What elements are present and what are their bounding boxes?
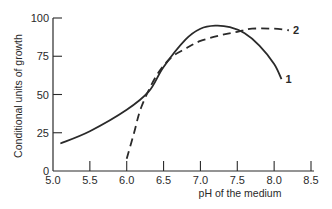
- y-tick-label: 25: [37, 127, 49, 139]
- x-axis: 5.05.56.06.57.07.58.08.5: [45, 161, 318, 186]
- y-tick-label: 75: [37, 50, 49, 62]
- series-1-line: [60, 26, 281, 144]
- x-axis-title: pH of the medium: [199, 187, 282, 199]
- y-axis: 0255075100: [31, 12, 62, 177]
- x-tick-label: 8.5: [303, 174, 318, 186]
- series-2-line: [127, 28, 289, 158]
- y-axis-title: Conditional units of growth: [12, 34, 24, 158]
- x-tick-label: 8.0: [266, 174, 281, 186]
- series-1-label: 1: [286, 73, 292, 85]
- x-tick-label: 5.5: [82, 174, 97, 186]
- x-tick-label: 7.0: [193, 174, 208, 186]
- y-tick-label: 100: [31, 12, 49, 24]
- plot-lines: [60, 26, 289, 159]
- x-tick-label: 5.0: [45, 174, 60, 186]
- curve-labels: 12: [286, 24, 299, 85]
- series-2-label: 2: [293, 24, 299, 36]
- x-tick-label: 6.0: [119, 174, 134, 186]
- growth-vs-ph-chart: 0255075100 5.05.56.06.57.07.58.08.5 12 C…: [0, 0, 332, 209]
- y-tick-label: 50: [37, 89, 49, 101]
- x-tick-label: 6.5: [156, 174, 171, 186]
- x-tick-label: 7.5: [230, 174, 245, 186]
